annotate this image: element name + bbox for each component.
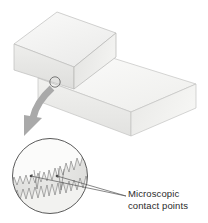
label-contact-points: contact points — [128, 200, 188, 212]
label-microscopic: Microscopic — [128, 188, 179, 200]
magnified-surface-detail — [8, 138, 92, 216]
